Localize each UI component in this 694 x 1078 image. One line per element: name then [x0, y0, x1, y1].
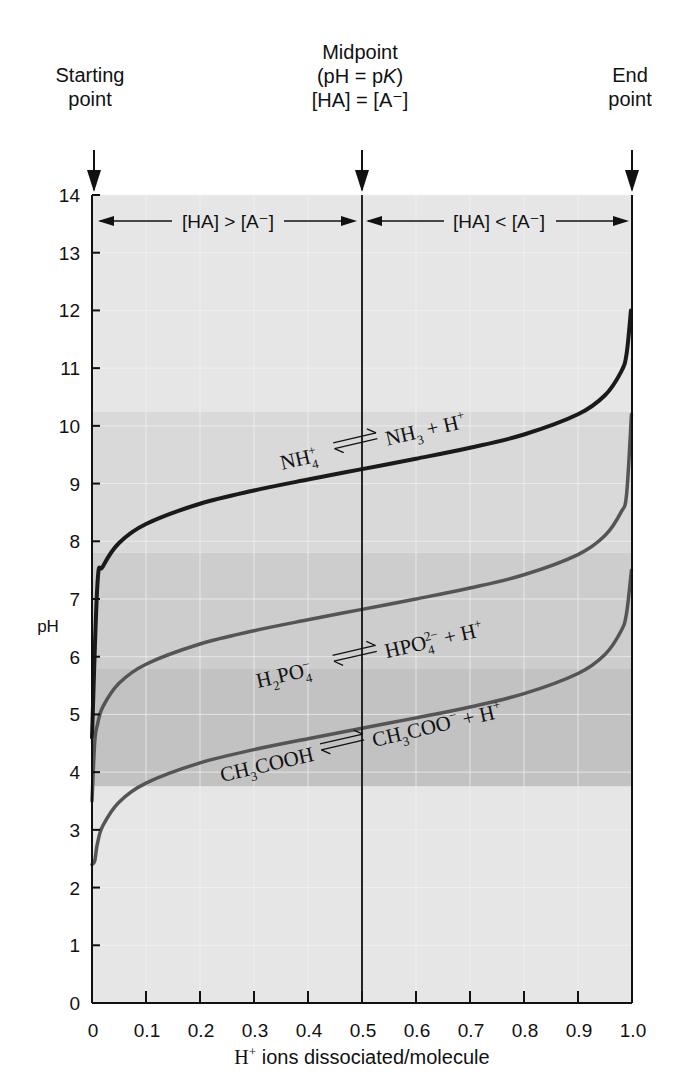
y-tick-label: 8: [69, 531, 80, 552]
y-tick-label: 12: [59, 300, 80, 321]
y-tick-label: 7: [69, 589, 80, 610]
x-tick-label: 0.8: [512, 1020, 538, 1041]
titration-figure: Starting point Midpoint (pH = pK) [HA] =…: [0, 0, 694, 1078]
y-tick-label: 14: [59, 185, 81, 206]
x-tick-label: 1.0: [620, 1020, 646, 1041]
region-right-label: [HA] < [A⁻]: [453, 211, 545, 232]
x-tick-label: 0.9: [566, 1020, 592, 1041]
y-tick-label: 11: [60, 358, 80, 379]
x-tick-label: 0.5: [350, 1020, 376, 1041]
x-tick-label: 0.6: [404, 1020, 430, 1041]
y-tick-label: 4: [69, 762, 80, 783]
y-tick-label: 13: [59, 243, 80, 264]
region-left-label: [HA] > [A⁻]: [182, 211, 274, 232]
y-tick-label: 2: [69, 878, 80, 899]
x-tick-label: 0.4: [296, 1020, 323, 1041]
y-tick-label: 9: [69, 474, 80, 495]
y-tick-label: 0: [69, 993, 80, 1014]
y-tick-label: 5: [69, 704, 80, 725]
x-tick-label: 0.3: [242, 1020, 268, 1041]
y-axis-label: pH: [37, 617, 59, 636]
end-point-arrowhead-icon: [625, 170, 639, 192]
midpoint-arrowhead-icon: [355, 170, 369, 192]
y-tick-label: 1: [69, 935, 80, 956]
x-tick-label: 0: [88, 1020, 99, 1041]
x-tick-label: 0.2: [188, 1020, 214, 1041]
x-tick-label: 0.1: [134, 1020, 160, 1041]
titration-chart: 0123456789101112131400.10.20.30.40.50.60…: [0, 0, 694, 1078]
starting-point-arrowhead-icon: [87, 170, 101, 192]
y-tick-label: 6: [69, 647, 80, 668]
y-tick-label: 3: [69, 820, 80, 841]
x-axis-label: H+ ions dissociated/molecule: [234, 1044, 489, 1068]
y-tick-label: 10: [59, 416, 80, 437]
x-tick-label: 0.7: [458, 1020, 484, 1041]
